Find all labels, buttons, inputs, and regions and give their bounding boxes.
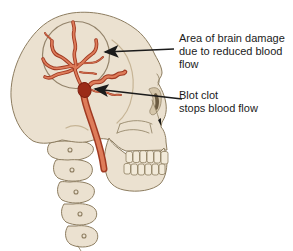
lower-teeth — [124, 164, 165, 176]
label-brain-damage-line1: Area of brain damage — [179, 32, 285, 45]
label-brain-damage: Area of brain damage due to reduced bloo… — [179, 32, 285, 71]
label-blood-clot-line1: Blot clot — [179, 89, 258, 102]
cervical-vertebrae — [48, 141, 98, 251]
label-blood-clot-line2: stops blood flow — [179, 102, 258, 115]
label-blood-clot: Blot clot stops blood flow — [179, 89, 258, 115]
label-brain-damage-line3: flow — [179, 58, 285, 71]
stroke-diagram-figure: Area of brain damage due to reduced bloo… — [0, 0, 293, 251]
cranium — [11, 12, 167, 151]
upper-teeth — [126, 151, 168, 164]
label-brain-damage-line2: due to reduced blood — [179, 45, 285, 58]
